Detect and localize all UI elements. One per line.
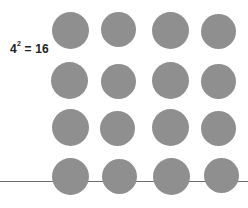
equation-label: 42 = 16 <box>10 42 49 56</box>
grid-dot <box>52 158 89 195</box>
grid-dot <box>152 62 189 99</box>
grid-dot <box>201 14 236 49</box>
grid-dot <box>153 158 190 195</box>
grid-dot <box>201 111 236 146</box>
grid-dot <box>204 158 239 193</box>
grid-dot <box>101 64 136 99</box>
grid-dot <box>152 109 189 146</box>
grid-dot <box>52 12 89 49</box>
grid-dot <box>152 12 189 49</box>
equation-result: = 16 <box>21 42 49 56</box>
grid-dot <box>101 12 136 47</box>
grid-dot <box>52 109 89 146</box>
equation-base: 4 <box>10 42 17 56</box>
grid-dot <box>51 62 88 99</box>
grid-dot <box>100 111 135 146</box>
grid-dot <box>102 159 137 194</box>
equation-exponent: 2 <box>17 40 21 47</box>
grid-dot <box>201 64 236 99</box>
